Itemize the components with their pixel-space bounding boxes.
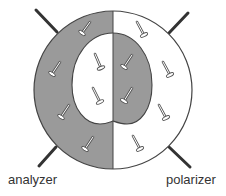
polarizer-axis-line (36, 10, 57, 32)
analyzer-label: analyzer (8, 172, 57, 187)
lc-domain-diagram (0, 0, 226, 196)
polarizer-axis-line (169, 147, 190, 167)
polarizer-axis-line (169, 13, 188, 33)
polarizer-axis-line (39, 147, 56, 166)
polarizer-label: polarizer (166, 172, 216, 187)
